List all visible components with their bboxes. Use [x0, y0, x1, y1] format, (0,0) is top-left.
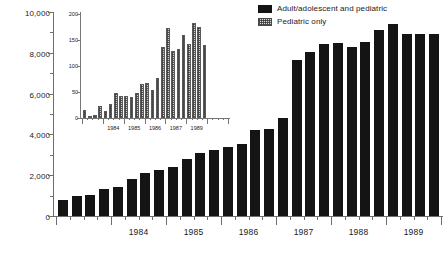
chart-legend: Adult/adolescent and pediatric Pediatric… [258, 3, 443, 29]
main-x-quarter-tick [152, 216, 153, 220]
main-bar [347, 47, 357, 216]
inset-y-axis-labels: 050100150200 [56, 12, 78, 116]
main-bar [127, 179, 137, 216]
main-x-year-label: 1987 [294, 227, 314, 237]
main-x-quarter-tick [97, 216, 98, 220]
inset-x-year-label: 1986 [149, 125, 161, 132]
main-bar [278, 118, 288, 216]
main-x-year-tick [221, 216, 222, 225]
main-y-tick-label: 0 [0, 214, 50, 222]
main-x-quarter-tick [249, 216, 250, 220]
inset-y-axis-line [80, 12, 81, 118]
inset-bar [135, 93, 139, 118]
main-y-tick [48, 175, 53, 176]
legend-swatch-solid-icon [258, 5, 272, 13]
inset-y-tick-label: 200 [56, 11, 78, 17]
main-y-axis-line [53, 12, 54, 216]
legend-label: Adult/adolescent and pediatric [277, 4, 387, 13]
inset-x-year-tick [186, 118, 187, 124]
main-bar [237, 144, 247, 216]
inset-x-quarter-tick [92, 118, 93, 120]
main-x-quarter-tick [359, 216, 360, 220]
inset-x-quarter-tick [119, 118, 120, 120]
inset-x-quarter-tick [134, 118, 135, 120]
main-x-quarter-tick [400, 216, 401, 220]
main-bar [305, 52, 315, 216]
main-bar [360, 42, 370, 216]
inset-x-quarter-tick [139, 118, 140, 120]
inset-y-tick [77, 14, 80, 15]
main-x-year-label: 1985 [184, 227, 204, 237]
main-bar [292, 60, 302, 216]
inset-y-tick-label: 0 [56, 115, 78, 121]
main-bar [209, 150, 219, 216]
inset-x-year-label: 1989 [191, 125, 203, 132]
main-bar [72, 196, 82, 216]
inset-x-year-tick [82, 118, 83, 124]
main-x-quarter-tick [290, 216, 291, 220]
main-y-tick-label: 2,000 [0, 173, 50, 181]
inset-bar [197, 27, 201, 118]
main-y-tick [48, 134, 53, 135]
main-x-axis-ticks [56, 216, 441, 226]
main-bar [168, 167, 178, 216]
main-bar [58, 200, 68, 216]
inset-x-year-tick [165, 118, 166, 124]
main-y-minor-tick [50, 155, 53, 156]
main-x-quarter-tick [304, 216, 305, 220]
inset-x-year-tick [124, 118, 125, 124]
inset-bar [192, 23, 196, 118]
inset-x-quarter-tick [113, 118, 114, 120]
inset-y-tick-label: 100 [56, 63, 78, 69]
inset-bar [177, 49, 181, 118]
main-x-quarter-tick [372, 216, 373, 220]
main-x-quarter-tick [235, 216, 236, 220]
main-y-minor-tick [50, 196, 53, 197]
inset-bar [166, 28, 170, 118]
legend-swatch-hatch-icon [258, 18, 272, 26]
main-y-tick-label: 4,000 [0, 132, 50, 140]
inset-y-tick-label: 50 [56, 89, 78, 95]
inset-x-year-tick [207, 118, 208, 124]
main-y-tick-label: 8,000 [0, 51, 50, 59]
inset-bar [124, 96, 128, 118]
inset-x-quarter-tick [87, 118, 88, 120]
main-x-year-tick [276, 216, 277, 225]
main-bar [154, 170, 164, 216]
inset-x-quarter-tick [212, 118, 213, 120]
inset-bar [98, 106, 102, 118]
inset-x-year-tick [103, 118, 104, 124]
main-bar [85, 195, 95, 216]
main-bar [195, 153, 205, 216]
inset-y-tick [77, 66, 80, 67]
inset-bar [156, 78, 160, 118]
main-x-quarter-tick [84, 216, 85, 220]
inset-x-year-label: 1987 [170, 125, 182, 132]
main-bar [99, 189, 109, 216]
inset-bar [145, 83, 149, 118]
main-x-quarter-tick [345, 216, 346, 220]
inset-x-quarter-tick [155, 118, 156, 120]
inset-bar [114, 93, 118, 118]
inset-plot-area [82, 14, 228, 118]
inset-y-tick [77, 92, 80, 93]
inset-bar [140, 84, 144, 118]
main-x-year-label: 1986 [239, 227, 259, 237]
main-bar [182, 159, 192, 216]
main-x-quarter-tick [317, 216, 318, 220]
main-x-quarter-tick [262, 216, 263, 220]
inset-bar [151, 90, 155, 118]
main-x-year-tick [386, 216, 387, 225]
inset-x-quarter-tick [202, 118, 203, 120]
main-y-tick-label: 6,000 [0, 92, 50, 100]
main-x-quarter-tick [125, 216, 126, 220]
inset-x-quarter-tick [181, 118, 182, 120]
main-bar [319, 44, 329, 216]
inset-bar [83, 110, 87, 118]
main-bar [113, 187, 123, 216]
inset-bar [104, 111, 108, 118]
main-x-year-tick [111, 216, 112, 225]
inset-x-axis-year-labels: 19841985198619871989 [82, 125, 228, 134]
main-y-tick-label: 10,000 [0, 10, 50, 18]
main-x-quarter-tick [207, 216, 208, 220]
